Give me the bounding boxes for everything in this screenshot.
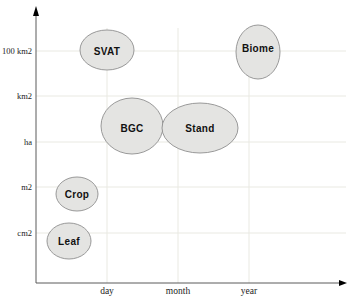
bubble-label-stand: Stand bbox=[185, 123, 214, 134]
bubble-label-leaf: Leaf bbox=[58, 236, 80, 247]
bubble-label-crop: Crop bbox=[65, 189, 90, 200]
bubble-label-svat: SVAT bbox=[94, 46, 120, 57]
y-tick-label-100-km2: 100 km2 bbox=[2, 46, 32, 56]
x-axis-arrow-icon bbox=[339, 280, 347, 286]
x-tick-label-year: year bbox=[241, 286, 258, 296]
bubble-label-bgc: BGC bbox=[120, 123, 143, 134]
scale-bubble-chart: cm2m2hakm2100 km2daymonthyearSVATBiomeBG… bbox=[0, 0, 356, 303]
x-tick-label-month: month bbox=[166, 286, 191, 296]
y-tick-label-km2: km2 bbox=[17, 91, 32, 101]
y-tick-label-ha: ha bbox=[24, 137, 32, 147]
y-tick-label-cm2: cm2 bbox=[17, 228, 32, 238]
y-tick-label-m2: m2 bbox=[21, 182, 32, 192]
y-axis-arrow-icon bbox=[33, 6, 39, 16]
x-tick-label-day: day bbox=[100, 286, 114, 296]
bubble-label-biome: Biome bbox=[242, 43, 274, 54]
chart-canvas: cm2m2hakm2100 km2daymonthyearSVATBiomeBG… bbox=[0, 0, 356, 303]
